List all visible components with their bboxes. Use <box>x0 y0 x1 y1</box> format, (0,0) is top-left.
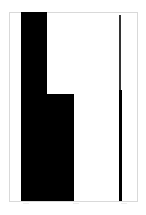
x-tick <box>121 203 127 208</box>
bar-1 <box>21 12 47 201</box>
x-tick <box>73 203 79 208</box>
x-tick <box>23 203 29 208</box>
vertical-line-thick-segment <box>119 90 122 201</box>
vertical-line-thin-segment <box>119 15 121 90</box>
x-axis-ticks <box>9 203 138 209</box>
bar-2 <box>47 94 74 201</box>
